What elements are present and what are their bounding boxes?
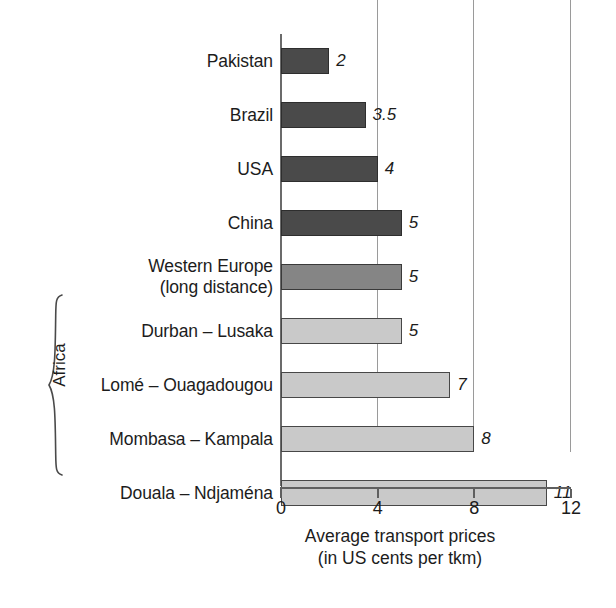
bar-chart-figure: Pakistan2Brazil3.5USA4China5Western Euro… (0, 0, 616, 608)
bar-row: Durban – Lusaka5 (0, 304, 616, 358)
bar-row-label-line: (long distance) (160, 277, 273, 298)
x-axis-title-line2: (in US cents per tkm) (190, 547, 610, 569)
africa-group-bracket: Africa (46, 293, 64, 477)
bar-row-label: Lomé – Ouagadougou (0, 358, 273, 412)
bar-row: Pakistan2 (0, 34, 616, 88)
x-axis-title: Average transport prices (in US cents pe… (190, 525, 610, 569)
bar (281, 426, 474, 452)
bar-row: Western Europe(long distance)5 (0, 250, 616, 304)
x-axis-tick-label: 8 (454, 498, 494, 519)
x-axis-tick-label: 12 (551, 498, 591, 519)
bar-row: Brazil3.5 (0, 88, 616, 142)
x-axis-title-line1: Average transport prices (190, 525, 610, 547)
bar-row: Douala – Ndjaména11 (0, 466, 616, 520)
bar-value-label: 5 (409, 264, 418, 290)
africa-group-label: Africa (50, 305, 70, 425)
bar-value-label: 3.5 (373, 102, 397, 128)
bar-row-label-line: Mombasa – Kampala (109, 429, 273, 450)
bar (281, 48, 329, 74)
bar (281, 480, 547, 506)
x-axis-tick (570, 489, 572, 498)
bar (281, 102, 366, 128)
bar-row: China5 (0, 196, 616, 250)
bar (281, 264, 402, 290)
x-axis-tick-label: 0 (261, 498, 301, 519)
bar-row-label-line: Brazil (230, 105, 273, 126)
bar-row: Lomé – Ouagadougou7 (0, 358, 616, 412)
bar-row-label-line: USA (237, 159, 273, 180)
bar-row-label: Western Europe(long distance) (0, 250, 273, 304)
bar-value-label: 2 (336, 48, 345, 74)
bar-value-label: 7 (457, 372, 466, 398)
bar-row-label: Durban – Lusaka (0, 304, 273, 358)
bar-row-label: Pakistan (0, 34, 273, 88)
bar-value-label: 4 (385, 156, 394, 182)
bar-row: USA4 (0, 142, 616, 196)
bar-row-label: China (0, 196, 273, 250)
bar (281, 318, 402, 344)
bar-value-label: 8 (481, 426, 490, 452)
bar-row-label: USA (0, 142, 273, 196)
x-axis-tick (280, 489, 282, 498)
bar-row-label-line: Durban – Lusaka (141, 321, 273, 342)
bar-value-label: 5 (409, 210, 418, 236)
bar-value-label: 5 (409, 318, 418, 344)
bar-row-label-line: Western Europe (148, 256, 273, 277)
x-axis-tick (473, 489, 475, 498)
bar (281, 210, 402, 236)
bar-row-label-line: Douala – Ndjaména (120, 483, 273, 504)
bar (281, 372, 450, 398)
bar (281, 156, 378, 182)
bar-row-label-line: Lomé – Ouagadougou (101, 375, 273, 396)
bar-row-label: Brazil (0, 88, 273, 142)
x-axis-line (280, 487, 571, 489)
x-axis-tick (377, 489, 379, 498)
bar-row-label: Douala – Ndjaména (0, 466, 273, 520)
bar-row-label: Mombasa – Kampala (0, 412, 273, 466)
x-axis-tick-label: 4 (358, 498, 398, 519)
bar-row-label-line: China (228, 213, 273, 234)
bar-row: Mombasa – Kampala8 (0, 412, 616, 466)
bar-row-label-line: Pakistan (207, 51, 273, 72)
